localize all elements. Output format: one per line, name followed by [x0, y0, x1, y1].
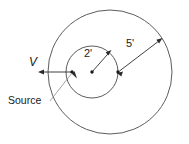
outer-radius-label: 5': [126, 37, 134, 49]
diagram-canvas: 2' 5' V Source: [0, 0, 189, 144]
velocity-label: V: [29, 55, 38, 69]
inner-radius-dimension-line: [92, 53, 109, 73]
inner-circle-right-dot: [116, 70, 119, 73]
source-label: Source: [8, 94, 41, 106]
velocity-arrowhead-icon: [38, 69, 44, 74]
inner-radius-label: 2': [84, 47, 92, 59]
inner-circle-center-dot: [90, 70, 93, 73]
circle-radii-diagram: 2' 5' V Source: [0, 0, 189, 144]
source-leader-line: [50, 73, 72, 101]
